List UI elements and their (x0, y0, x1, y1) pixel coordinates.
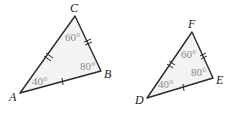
vertex-label-c: C (70, 1, 79, 15)
vertex-label-b: B (104, 67, 112, 81)
vertex-label-f: F (187, 17, 196, 31)
triangle-abc: A C B 40° 60° 80° (8, 1, 112, 104)
angle-label-f: 60° (181, 48, 196, 60)
angle-label-c: 60° (65, 31, 80, 43)
vertex-label-a: A (8, 90, 17, 104)
vertex-label-d: D (134, 93, 144, 107)
angle-label-a: 40° (32, 75, 47, 87)
angle-label-e: 80° (191, 66, 206, 78)
similar-triangles-diagram: A C B 40° 60° 80° D F E 40° 60° 80° (0, 0, 233, 114)
triangle-def: D F E 40° 60° 80° (134, 17, 224, 107)
triangle-def-shape (147, 32, 213, 98)
angle-label-d: 40° (158, 78, 173, 90)
angle-label-b: 80° (80, 60, 95, 72)
vertex-label-e: E (215, 73, 224, 87)
